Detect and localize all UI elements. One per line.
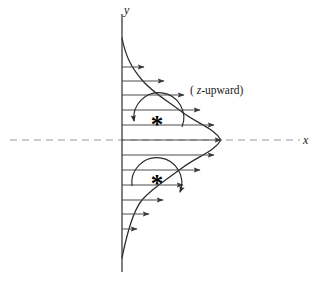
x-axis-label: x	[302, 133, 309, 147]
vorticity-asterisk-icon: *	[151, 170, 164, 197]
figure-canvas: x y *	[0, 0, 321, 282]
z-note-open-paren: (	[190, 84, 197, 97]
vorticity-marker-lower: *	[132, 158, 182, 197]
z-upward-annotation: ( z-upward)	[190, 84, 244, 97]
z-note-suffix: -upward)	[201, 84, 243, 97]
vorticity-marker-upper: *	[134, 93, 184, 138]
velocity-profile-curve	[122, 38, 221, 258]
velocity-profile-figure: x y *	[0, 0, 321, 282]
y-axis-label: y	[123, 3, 130, 17]
profile-curve-path	[122, 38, 221, 258]
svg-text:( z-upward): ( z-upward)	[190, 84, 244, 97]
vorticity-asterisk-icon: *	[151, 111, 164, 138]
